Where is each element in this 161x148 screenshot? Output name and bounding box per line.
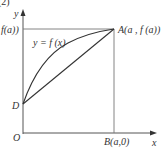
y-axis-label: y — [13, 8, 19, 19]
point-B-label: B(a,0) — [104, 136, 130, 148]
curve-label: y = f (x) — [32, 37, 66, 49]
point-D-label: D — [11, 100, 20, 111]
x-axis-label: x — [151, 137, 157, 148]
function-diagram: (2) y x O f(a)) y = f (x) D A(a , f (a))… — [0, 0, 161, 148]
y-tick-label-fa: f(a)) — [1, 24, 19, 36]
point-A-label: A(a , f (a)) — [117, 24, 161, 36]
x-axis-arrow-icon — [150, 131, 157, 136]
y-axis-arrow-icon — [21, 9, 26, 16]
caption-partial: (2) — [0, 0, 10, 8]
origin-label: O — [13, 132, 20, 143]
